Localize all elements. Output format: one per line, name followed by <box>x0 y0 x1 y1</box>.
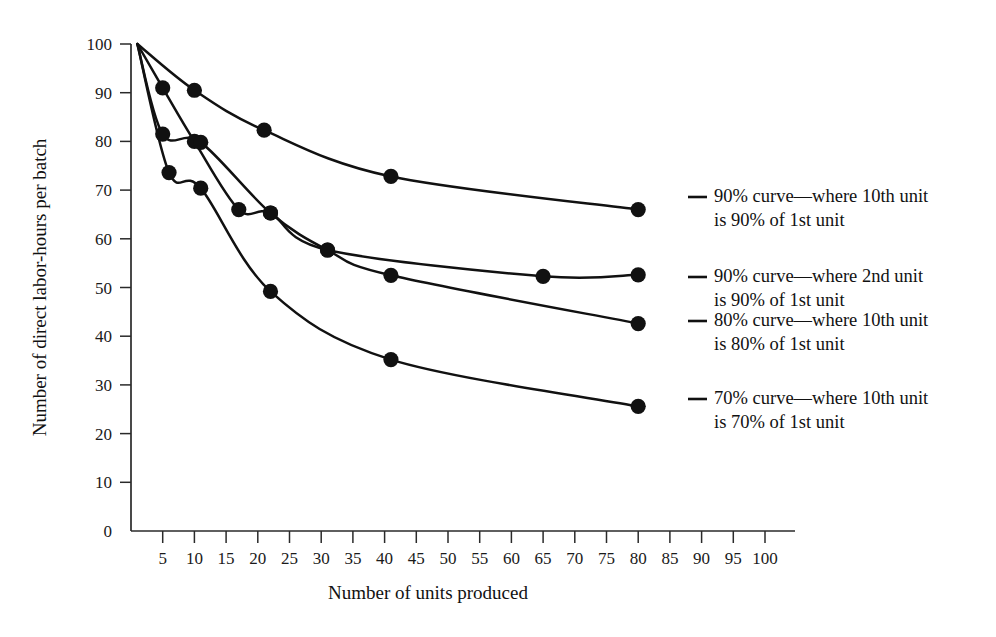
y-tick-label: 10 <box>95 473 112 492</box>
x-tick-label: 85 <box>661 549 678 568</box>
x-tick-label: 55 <box>471 549 488 568</box>
x-tick-label: 40 <box>376 549 393 568</box>
data-point <box>187 83 202 98</box>
data-point <box>155 126 170 141</box>
y-tick-label: 70 <box>95 181 112 200</box>
legend-label-line2-1: is 90% of 1st unit <box>714 290 845 310</box>
data-point <box>263 284 278 299</box>
y-tick-label: 80 <box>95 132 112 151</box>
legend-label-line1-3: 70% curve—where 10th unit <box>714 388 929 408</box>
y-tick-label: 60 <box>95 230 112 249</box>
y-tick-label: 0 <box>104 522 113 541</box>
legend-label-line1-1: 90% curve—where 2nd unit <box>714 266 924 286</box>
x-tick-label: 65 <box>535 549 552 568</box>
x-tick-label: 15 <box>218 549 235 568</box>
data-point <box>257 123 272 138</box>
y-tick-label: 50 <box>95 279 112 298</box>
data-point <box>320 242 335 257</box>
x-tick-label: 10 <box>186 549 203 568</box>
data-point <box>631 267 646 282</box>
y-tick-label: 100 <box>87 35 113 54</box>
data-point <box>383 352 398 367</box>
curve-series-1 <box>137 44 638 278</box>
x-tick-label: 45 <box>408 549 425 568</box>
y-tick-label: 30 <box>95 376 112 395</box>
x-tick-label: 70 <box>566 549 583 568</box>
data-point <box>263 205 278 220</box>
y-axis-ticks: 0102030405060708090100 <box>87 35 132 541</box>
data-point <box>631 399 646 414</box>
data-point <box>161 165 176 180</box>
data-points <box>155 80 646 414</box>
y-tick-label: 90 <box>95 84 112 103</box>
chart-canvas: 0102030405060708090100 51015202530354045… <box>0 0 996 637</box>
x-tick-label: 5 <box>158 549 167 568</box>
x-tick-label: 20 <box>249 549 266 568</box>
legend-label-line2-0: is 90% of 1st unit <box>714 210 845 230</box>
x-tick-label: 50 <box>440 549 457 568</box>
legend-label-line2-2: is 80% of 1st unit <box>714 334 845 354</box>
x-tick-label: 95 <box>725 549 742 568</box>
data-point <box>231 202 246 217</box>
x-axis-title: Number of units produced <box>328 582 528 603</box>
x-tick-label: 90 <box>693 549 710 568</box>
y-tick-label: 40 <box>95 327 112 346</box>
x-tick-label: 25 <box>281 549 298 568</box>
data-curves <box>137 44 638 406</box>
x-tick-label: 35 <box>344 549 361 568</box>
x-tick-label: 80 <box>630 549 647 568</box>
learning-curve-chart: 0102030405060708090100 51015202530354045… <box>0 0 996 637</box>
legend-label-line2-3: is 70% of 1st unit <box>714 412 845 432</box>
legend-label-line1-2: 80% curve—where 10th unit <box>714 310 929 330</box>
legend-label-line1-0: 90% curve—where 10th unit <box>714 186 929 206</box>
x-tick-label: 100 <box>752 549 778 568</box>
x-tick-label: 30 <box>313 549 330 568</box>
data-point <box>383 169 398 184</box>
x-tick-label: 60 <box>503 549 520 568</box>
data-point <box>193 181 208 196</box>
data-point <box>631 202 646 217</box>
data-point <box>383 268 398 283</box>
curve-series-0 <box>137 44 638 210</box>
x-tick-label: 75 <box>598 549 615 568</box>
curve-series-3 <box>137 44 638 406</box>
data-point <box>193 135 208 150</box>
x-axis-ticks: 5101520253035404550556065707580859095100 <box>158 531 777 568</box>
data-point <box>536 269 551 284</box>
y-axis-title: Number of direct labor-hours per batch <box>29 138 50 436</box>
chart-legend: 90% curve—where 10th unitis 90% of 1st u… <box>688 186 929 432</box>
data-point <box>631 316 646 331</box>
y-tick-label: 20 <box>95 425 112 444</box>
data-point <box>155 80 170 95</box>
